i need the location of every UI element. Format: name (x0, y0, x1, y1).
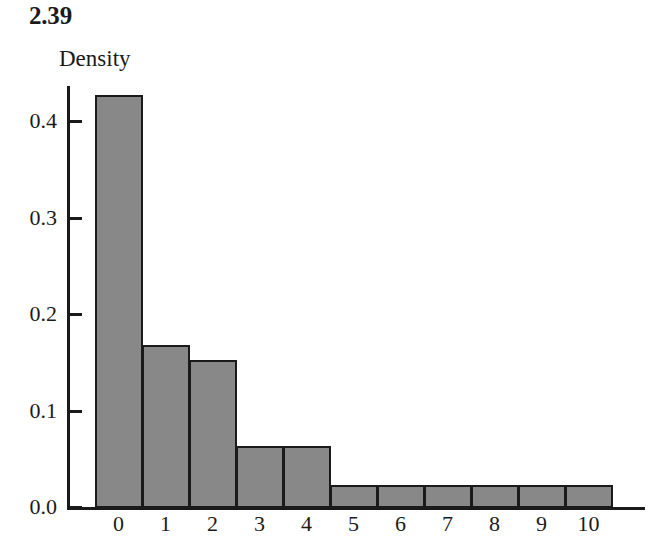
y-tick-mark (70, 506, 82, 509)
histogram-bar (236, 446, 284, 508)
y-tick-label: 0.0 (0, 496, 57, 518)
y-axis-line (67, 86, 70, 510)
x-tick-label: 4 (282, 512, 332, 536)
histogram-bar (471, 485, 519, 508)
x-tick-label: 2 (188, 512, 238, 536)
y-tick-mark (70, 313, 82, 316)
y-tick-label: 0.4 (0, 110, 57, 132)
y-tick-label: 0.1 (0, 400, 57, 422)
y-tick-mark (70, 410, 82, 413)
histogram-bar (142, 345, 190, 508)
histogram-bar (518, 485, 566, 508)
histogram-figure: 2.39 Density 0.00.10.20.30.4 01234567891… (0, 0, 664, 538)
histogram-bar (377, 485, 425, 508)
histogram-bar (330, 485, 378, 508)
x-tick-label: 5 (329, 512, 379, 536)
x-tick-label: 3 (235, 512, 285, 536)
histogram-bar (424, 485, 472, 508)
histogram-bar (95, 95, 143, 508)
y-tick-label: 0.2 (0, 303, 57, 325)
histogram-bar (283, 446, 331, 508)
x-tick-label: 0 (94, 512, 144, 536)
x-tick-label: 8 (470, 512, 520, 536)
y-tick-mark (70, 120, 82, 123)
plot-area: 0.00.10.20.30.4 012345678910 (0, 0, 664, 538)
x-tick-label: 6 (376, 512, 426, 536)
histogram-bar (565, 485, 613, 508)
histogram-bar (189, 360, 237, 508)
x-tick-label: 7 (423, 512, 473, 536)
x-tick-label: 10 (564, 512, 614, 536)
x-tick-label: 1 (141, 512, 191, 536)
y-tick-label: 0.3 (0, 207, 57, 229)
y-tick-mark (70, 217, 82, 220)
x-tick-label: 9 (517, 512, 567, 536)
